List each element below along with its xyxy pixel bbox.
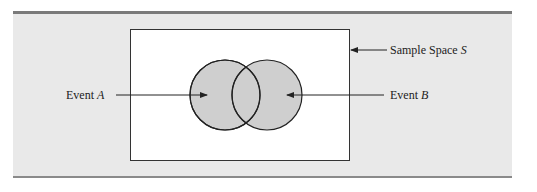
sample-space-symbol: S [461,43,467,57]
event-a-label: Event A [66,88,104,102]
event-b-label: Event B [390,88,428,102]
event-a-symbol: A [97,88,104,102]
event-a-text: Event [66,88,94,102]
sample-space-label: Sample Space S [390,43,467,57]
event-b-text: Event [390,88,418,102]
sample-space-text: Sample Space [390,43,458,57]
event-b-symbol: B [421,88,428,102]
